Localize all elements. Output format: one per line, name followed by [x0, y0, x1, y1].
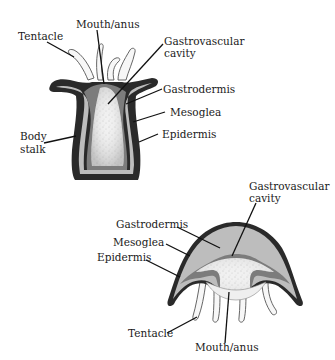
medusa-figure [167, 222, 302, 322]
polyp-label-gastrodermis: Gastrodermis [163, 83, 235, 95]
medusa-label-tentacle: Tentacle [128, 327, 173, 339]
polyp-label-cavity-2: cavity [164, 47, 196, 59]
polyp-label-mouth-anus: Mouth/anus [76, 18, 140, 30]
cnidarian-diagram: Tentacle Mouth/anus Gastrovascular cavit… [0, 0, 335, 360]
medusa-label-mesoglea: Mesoglea [113, 236, 164, 248]
medusa-label-epidermis: Epidermis [97, 251, 151, 263]
medusa-label-mouth-anus: Mouth/anus [195, 341, 259, 353]
medusa-label-cavity-2: cavity [249, 192, 281, 204]
polyp-label-stalk: stalk [20, 143, 46, 155]
polyp-label-mesoglea: Mesoglea [170, 106, 221, 118]
polyp-label-epidermis: Epidermis [162, 128, 216, 140]
polyp-label-body: Body [20, 130, 47, 142]
polyp-figure [49, 44, 158, 180]
medusa-label-gastrodermis: Gastrodermis [116, 218, 188, 230]
polyp-label-cavity-1: Gastrovascular [164, 35, 245, 47]
polyp-label-tentacle: Tentacle [18, 30, 63, 42]
medusa-label-cavity-1: Gastrovascular [249, 180, 330, 192]
